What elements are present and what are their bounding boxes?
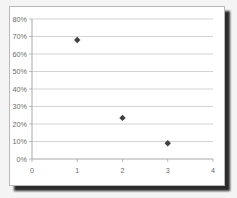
chart-plot-area: 0%10%20%30%40%50%60%70%80% 01234: [10, 7, 224, 185]
y-axis-tick-label: 20%: [13, 120, 28, 129]
y-axis-tick-label: 60%: [13, 50, 28, 59]
gridlines-group: [32, 19, 213, 142]
x-axis-tick-label: 2: [121, 166, 125, 175]
x-axis-tick-label: 4: [211, 166, 215, 175]
data-point-marker: [165, 140, 171, 146]
scatter-chart-svg: 0%10%20%30%40%50%60%70%80% 01234: [10, 7, 226, 187]
xtick-labels-group: 01234: [30, 166, 215, 175]
data-markers-group: [74, 37, 171, 147]
y-axis-tick-label: 0%: [17, 155, 28, 164]
y-axis-tick-label: 80%: [13, 15, 28, 24]
ytick-labels-group: 0%10%20%30%40%50%60%70%80%: [13, 15, 28, 164]
x-axis-tick-label: 1: [75, 166, 79, 175]
x-axis-tick-label: 3: [166, 166, 170, 175]
chart-card: 0%10%20%30%40%50%60%70%80% 01234: [9, 6, 225, 186]
y-axis-tick-label: 50%: [13, 67, 28, 76]
screenshot-root: 0%10%20%30%40%50%60%70%80% 01234: [0, 0, 237, 198]
x-axis-tick-label: 0: [30, 166, 34, 175]
data-point-marker: [119, 115, 125, 121]
axes-group: [29, 19, 213, 162]
y-axis-tick-label: 30%: [13, 102, 28, 111]
data-point-marker: [74, 37, 80, 43]
y-axis-tick-label: 10%: [13, 137, 28, 146]
y-axis-tick-label: 40%: [13, 85, 28, 94]
y-axis-tick-label: 70%: [13, 32, 28, 41]
